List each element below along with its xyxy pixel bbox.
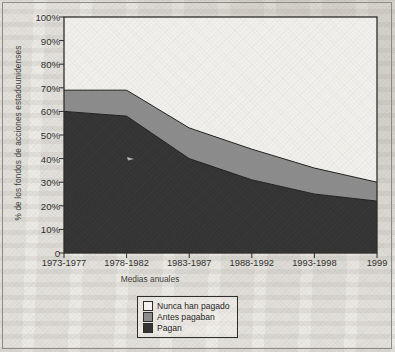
chart-legend: Nunca han pagado Antes pagaban Pagan	[137, 296, 238, 338]
y-axis-ticks	[59, 17, 64, 253]
legend-swatch-never-paid	[143, 301, 153, 311]
x-tick-label: 1978-1982	[104, 258, 148, 268]
x-tick-label: 1983-1987	[167, 258, 211, 268]
x-tick-label: 1993-1998	[292, 258, 336, 268]
legend-label-never-paid: Nunca han pagado	[157, 301, 230, 311]
x-tick-label: 1999	[367, 258, 388, 268]
legend-item-never-paid: Nunca han pagado	[143, 300, 230, 311]
legend-swatch-paying	[143, 323, 153, 333]
legend-swatch-formerly-paid	[143, 312, 153, 322]
legend-item-paying: Pagan	[143, 322, 230, 333]
x-tick-label: 1973-1977	[42, 258, 86, 268]
legend-label-paying: Pagan	[157, 323, 182, 333]
x-axis-title: Medias anuales	[60, 274, 240, 284]
x-tick-label: 1988-1992	[230, 258, 274, 268]
stacked-area-chart: % de los fondos de acciones estadouniden…	[0, 0, 395, 352]
legend-item-formerly-paid: Antes pagaban	[143, 311, 230, 322]
legend-label-formerly-paid: Antes pagaban	[157, 312, 215, 322]
